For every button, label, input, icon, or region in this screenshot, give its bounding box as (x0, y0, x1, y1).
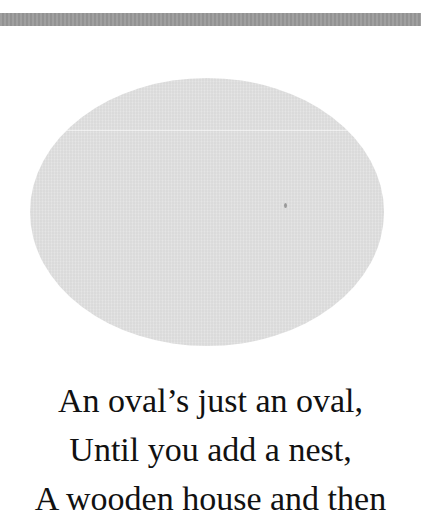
oval-texture-speck (284, 203, 287, 208)
poem-line-1: An oval’s just an oval, (0, 376, 421, 425)
poem-line-3: A wooden house and then (0, 474, 421, 514)
poem-text: An oval’s just an oval, Until you add a … (0, 376, 421, 514)
poem-line-2: Until you add a nest, (0, 425, 421, 474)
oval-texture-seam (30, 130, 384, 131)
top-divider-band (0, 13, 421, 26)
oval-illustration (30, 78, 384, 346)
